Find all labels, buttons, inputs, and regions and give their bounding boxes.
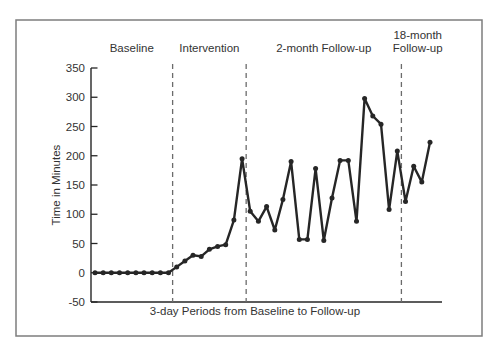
data-point [379,122,384,127]
phase-label: 2-month Follow-up [276,42,371,54]
data-point [101,270,106,275]
y-tick-label: 350 [66,62,85,74]
data-point [280,197,285,202]
y-tick-label: 200 [66,150,85,162]
y-tick-label: 150 [66,179,85,191]
phase-label: Baseline [110,42,154,54]
phase-label: Follow-up [393,42,443,54]
data-point [330,195,335,200]
data-point [264,204,269,209]
phase-label: Intervention [179,42,239,54]
y-tick-label: 50 [72,238,85,250]
figure-frame: 350300250200150100500-50 BaselineInterve… [0,0,498,354]
data-point [313,166,318,171]
data-point [240,156,245,161]
data-point [387,207,392,212]
data-point [207,247,212,252]
data-point [338,158,343,163]
data-point [142,270,147,275]
y-tick-label: 300 [66,91,85,103]
data-point [403,199,408,204]
y-tick-label: 250 [66,121,85,133]
data-point [125,270,130,275]
data-point [411,164,416,169]
y-tick-label: 100 [66,208,85,220]
data-point [297,237,302,242]
data-point [346,158,351,163]
data-point [395,149,400,154]
data-point [133,270,138,275]
data-point [256,219,261,224]
data-point [191,253,196,258]
data-point [223,242,228,247]
x-axis-title: 3-day Periods from Baseline to Follow-up [150,305,360,317]
data-point [428,140,433,145]
data-point [158,270,163,275]
data-point [321,238,326,243]
data-point [215,244,220,249]
data-point [109,270,114,275]
data-point [182,259,187,264]
data-point [362,96,367,101]
y-tick-label: 0 [79,267,85,279]
data-point [248,209,253,214]
y-tick-label: -50 [68,296,85,308]
data-point [150,270,155,275]
phase-label: 18-month [393,29,442,41]
data-point [419,180,424,185]
data-point [289,159,294,164]
y-axis-title: Time in Minutes [50,144,62,225]
data-point [272,228,277,233]
data-point [231,218,236,223]
data-point [166,270,171,275]
data-point [174,264,179,269]
line-chart: 350300250200150100500-50 BaselineInterve… [0,0,498,354]
data-point [305,237,310,242]
data-point [199,254,204,259]
data-point [93,270,98,275]
data-point [117,270,122,275]
data-point [354,219,359,224]
data-point [370,114,375,119]
